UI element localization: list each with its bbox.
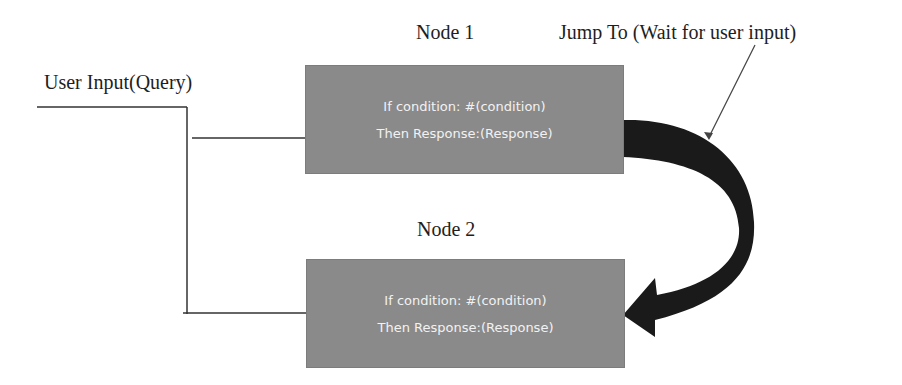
jump-curved-arrow: [623, 120, 754, 337]
node1-title: Node 1: [416, 22, 474, 42]
node2-title: Node 2: [417, 219, 475, 239]
node2-response-text: Then Response:(Response): [378, 321, 554, 334]
node1-response-text: Then Response:(Response): [377, 127, 553, 140]
jump-to-label: Jump To (Wait for user input): [559, 22, 796, 42]
user-input-label: User Input(Query): [44, 72, 192, 92]
jump-label-pointer-head: [704, 132, 713, 140]
diagram-canvas: User Input(Query) Node 1 Jump To (Wait f…: [0, 0, 902, 385]
node2-box[interactable]: If condition: #(condition) Then Response…: [306, 259, 625, 368]
node2-condition-text: If condition: #(condition): [384, 294, 546, 307]
jump-label-pointer-line: [709, 45, 755, 137]
node1-condition-text: If condition: #(condition): [383, 100, 545, 113]
node1-box[interactable]: If condition: #(condition) Then Response…: [305, 65, 624, 174]
